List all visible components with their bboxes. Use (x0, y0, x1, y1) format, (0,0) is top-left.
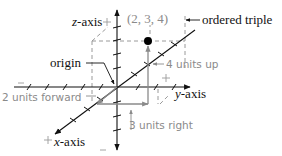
ordered-triple-label: ordered triple (202, 12, 273, 27)
point-coordinates: (2, 3, 4) (127, 11, 168, 26)
origin-label: origin (50, 55, 82, 70)
coordinate-diagram: z-axis (2, 3, 4) ordered triple origin 4… (0, 0, 282, 156)
origin-leader (86, 63, 114, 84)
y-axis-suffix: -axis (181, 86, 206, 101)
axis-ticks (27, 26, 177, 131)
guide-path (97, 46, 148, 104)
point-marker (144, 37, 152, 45)
z-axis-label: z-axis (71, 14, 102, 29)
forward-label: 2 units forward (2, 91, 81, 103)
x-axis-suffix: -axis (60, 134, 85, 149)
y-axis-label: y-axis (173, 86, 206, 101)
right-label: 3 units right (129, 119, 193, 131)
z-axis-suffix: -axis (77, 14, 102, 29)
up-label: 4 units up (166, 58, 219, 70)
x-axis-label: x-axis (53, 134, 85, 149)
